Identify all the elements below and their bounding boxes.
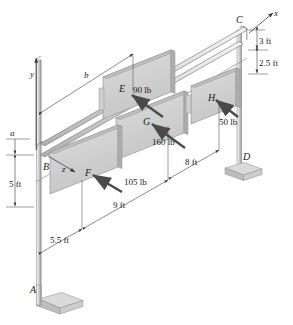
dimension-5p5ft: 5.5 ft — [42, 180, 82, 252]
axis-z-label: z — [61, 164, 66, 174]
base-plate-d — [225, 163, 262, 181]
statics-sign-truss-figure: x y z A B C D E F G H 90 lb 105 lb 160 — [0, 0, 293, 325]
point-label-a: A — [29, 284, 37, 295]
dimension-a: a — [6, 128, 34, 155]
point-label-g: G — [143, 116, 150, 127]
dimension-5p5ft-label: 5.5 ft — [50, 235, 69, 245]
left-pole — [37, 60, 42, 306]
point-label-c: C — [236, 14, 243, 25]
dimension-8ft-label: 8 ft — [185, 157, 198, 167]
dimension-a-label: a — [10, 128, 15, 138]
point-label-d: D — [242, 151, 251, 162]
dimension-5ft-label: 5 ft — [9, 179, 22, 189]
base-plate-a — [37, 285, 84, 314]
dimension-3ft-label: 3 ft — [259, 36, 272, 46]
axis-x: x — [249, 8, 278, 33]
point-label-e: E — [118, 83, 125, 94]
dimension-9ft-label: 9 ft — [113, 200, 126, 210]
load-arrow-f: 105 lb — [93, 175, 147, 192]
point-label-f: F — [84, 167, 92, 178]
dimension-3ft: 3 ft — [248, 30, 272, 50]
dimension-2p5ft: 2.5 ft — [248, 52, 278, 74]
dimension-5ft: 5 ft — [6, 159, 34, 207]
point-label-h: H — [207, 92, 216, 103]
axis-y: y — [29, 58, 36, 150]
load-label-f: 105 lb — [124, 177, 147, 187]
dimension-2p5ft-label: 2.5 ft — [259, 58, 278, 68]
load-label-h: 50 lb — [219, 117, 238, 127]
point-label-b: B — [43, 161, 49, 172]
dimension-b-label: b — [84, 70, 89, 80]
load-label-e: 90 lb — [133, 85, 152, 95]
load-label-g: 160 lb — [152, 137, 175, 147]
axis-y-label: y — [29, 69, 34, 79]
axis-x-label: x — [273, 8, 278, 18]
figure-canvas: x y z A B C D E F G H 90 lb 105 lb 160 — [0, 0, 293, 325]
